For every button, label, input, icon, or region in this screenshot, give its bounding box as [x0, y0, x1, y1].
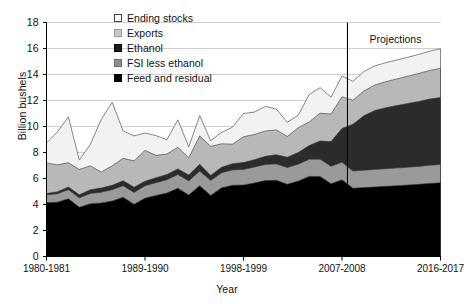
- legend-label: Ending stocks: [127, 12, 193, 24]
- y-tick-label: 8: [11, 146, 39, 158]
- legend-swatch-icon: [114, 44, 122, 52]
- stacked-area-layers: [47, 49, 441, 257]
- legend-swatch-icon: [114, 29, 122, 37]
- y-tick-label: 2: [11, 224, 39, 236]
- legend-label: FSI less ethanol: [127, 57, 203, 69]
- legend-item: Ending stocks: [114, 10, 212, 25]
- legend-item: FSI less ethanol: [114, 56, 212, 71]
- y-tick-label: 18: [11, 16, 39, 28]
- legend-label: Ethanol: [127, 42, 163, 54]
- y-tick-label: 12: [11, 94, 39, 106]
- x-tick-label: 2016-2017: [396, 263, 469, 274]
- legend-label: Exports: [127, 27, 163, 39]
- y-tick-label: 16: [11, 42, 39, 54]
- chart-legend: Ending stocksExportsEthanolFSI less etha…: [114, 10, 212, 86]
- x-tick-label: 1989-1990: [100, 263, 190, 274]
- x-tick-label: 1980-1981: [2, 263, 92, 274]
- projections-annotation: Projections: [369, 33, 421, 45]
- y-tick-label: 0: [11, 250, 39, 262]
- legend-swatch-icon: [114, 74, 122, 82]
- legend-item: Exports: [114, 25, 212, 40]
- legend-item: Ethanol: [114, 40, 212, 55]
- x-tick-label: 2007-2008: [297, 263, 387, 274]
- y-tick-label: 10: [11, 120, 39, 132]
- legend-swatch-icon: [114, 14, 122, 22]
- x-tick-marks: [47, 257, 441, 261]
- y-tick-label: 4: [11, 198, 39, 210]
- y-tick-label: 14: [11, 68, 39, 80]
- legend-item: Feed and residual: [114, 71, 212, 86]
- x-tick-label: 1998-1999: [199, 263, 289, 274]
- y-tick-label: 6: [11, 172, 39, 184]
- legend-swatch-icon: [114, 59, 122, 67]
- legend-label: Feed and residual: [127, 72, 212, 84]
- x-axis-title: Year: [0, 283, 454, 295]
